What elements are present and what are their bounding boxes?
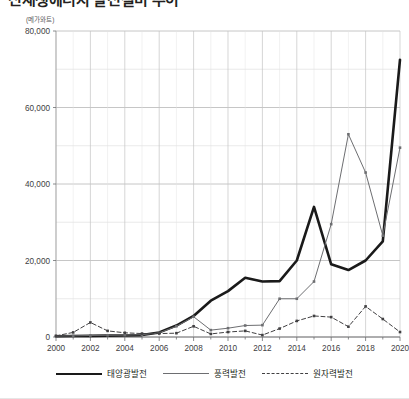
legend-item-wind: 풍력발전 (163, 367, 246, 379)
svg-text:2016: 2016 (322, 344, 341, 353)
legend-item-solar: 태양광발전 (56, 367, 147, 379)
svg-text:2014: 2014 (288, 344, 307, 353)
svg-text:2008: 2008 (184, 344, 203, 353)
legend-line-icon-nuclear (262, 369, 308, 377)
line-chart: 020,00040,00060,00080,000 20002002200420… (0, 0, 409, 364)
svg-text:2012: 2012 (253, 344, 272, 353)
legend-label-nuclear: 원자력발전 (313, 367, 353, 379)
y-axis-ticks: 020,00040,00060,00080,000 (25, 27, 56, 342)
svg-text:2000: 2000 (47, 344, 66, 353)
x-axis-ticks: 2000200220042006200820102012201420162018… (47, 337, 409, 353)
svg-text:80,000: 80,000 (25, 27, 50, 36)
svg-text:2018: 2018 (356, 344, 375, 353)
legend-label-solar: 태양광발전 (107, 367, 147, 379)
svg-text:20,000: 20,000 (25, 257, 50, 266)
svg-text:2010: 2010 (219, 344, 238, 353)
legend-item-nuclear: 원자력발전 (262, 367, 353, 379)
legend-line-icon-solar (56, 369, 102, 377)
svg-text:2020: 2020 (391, 344, 409, 353)
svg-text:60,000: 60,000 (25, 104, 50, 113)
svg-text:2002: 2002 (81, 344, 100, 353)
svg-text:2006: 2006 (150, 344, 169, 353)
svg-text:40,000: 40,000 (25, 180, 50, 189)
svg-text:2004: 2004 (116, 344, 135, 353)
svg-text:0: 0 (45, 333, 50, 342)
chart-legend: 태양광발전 풍력발전 원자력발전 (0, 364, 409, 382)
legend-label-wind: 풍력발전 (214, 367, 246, 379)
legend-line-icon-wind (163, 369, 209, 377)
figure-panel: 신재생에너지 발전설비 추이 (메가와트) 020,00040,00060,00… (0, 0, 409, 399)
